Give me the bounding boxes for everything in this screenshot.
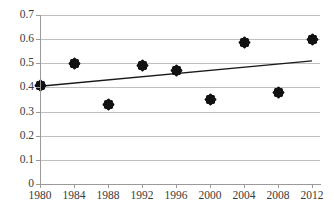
y-tick-0.4 <box>36 87 41 88</box>
x-tick-2004 <box>244 184 245 188</box>
plot-area <box>40 15 320 184</box>
x-tick-2008 <box>278 184 279 188</box>
x-tick-1984 <box>74 184 75 188</box>
x-tick-1988 <box>108 184 109 188</box>
x-tick-2012 <box>312 184 313 188</box>
x-tick-2000 <box>210 184 211 188</box>
y-axis-label-0.4: 0.4 <box>0 81 34 93</box>
y-tick-0.7 <box>36 15 41 16</box>
y-axis-label-0.1: 0.1 <box>0 154 34 166</box>
y-tick-0.2 <box>36 136 41 137</box>
x-tick-1996 <box>176 184 177 188</box>
y-tick-0.6 <box>36 39 41 40</box>
x-tick-1980 <box>40 184 41 188</box>
x-tick-1992 <box>142 184 143 188</box>
y-tick-0.1 <box>36 160 41 161</box>
trend-line <box>40 15 320 184</box>
y-axis-label-0.7: 0.7 <box>0 9 34 21</box>
y-tick-0.3 <box>36 112 41 113</box>
y-axis-label-0.2: 0.2 <box>0 130 34 142</box>
scatter-chart: 0.7 0.6 0.5 0.4 0.3 0.2 0.1 0 1980198419… <box>0 0 334 213</box>
data-point-2012 <box>306 33 319 46</box>
x-axis-label-2012: 2012 <box>289 189 334 202</box>
y-axis-label-0.5: 0.5 <box>0 57 34 69</box>
y-axis-label-0.3: 0.3 <box>0 106 34 118</box>
y-axis-label-0.6: 0.6 <box>0 33 34 45</box>
y-tick-0.5 <box>36 63 41 64</box>
y-axis-label-0: 0 <box>0 178 34 190</box>
